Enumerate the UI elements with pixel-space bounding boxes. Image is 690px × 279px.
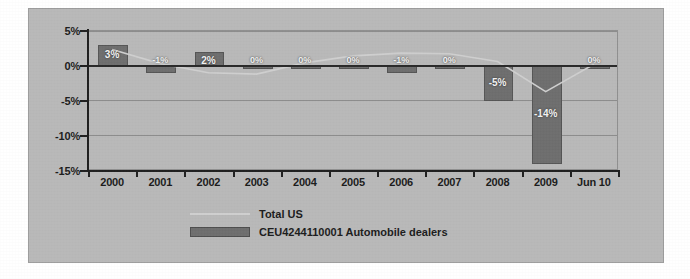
x-tick-label-2001: 2001 xyxy=(136,176,184,188)
x-tick-label-2004: 2004 xyxy=(281,176,329,188)
y-tick-label-1: 0% xyxy=(20,60,80,72)
x-axis-spine xyxy=(88,170,618,172)
legend-label-automobile-dealers: CEU4244110001 Automobile dealers xyxy=(259,226,448,238)
x-tick-label-2000: 2000 xyxy=(88,176,136,188)
legend: Total US CEU4244110001 Automobile dealer… xyxy=(190,207,448,243)
x-tick-label-2008: 2008 xyxy=(473,176,521,188)
bar-label-2001: -1% xyxy=(136,55,184,65)
x-tick-label-2002: 2002 xyxy=(184,176,232,188)
x-tick-mark-7 xyxy=(425,170,427,177)
legend-item-automobile-dealers: CEU4244110001 Automobile dealers xyxy=(190,225,448,238)
x-tick-mark-10 xyxy=(570,170,572,177)
bar-label-2004: 0% xyxy=(281,55,329,65)
zero-line xyxy=(89,65,617,67)
x-tick-mark-5 xyxy=(329,170,331,177)
legend-label-total-us: Total US xyxy=(259,208,303,220)
x-tick-mark-3 xyxy=(233,170,235,177)
bar-label-2008: -5% xyxy=(473,77,521,88)
legend-bar-swatch-icon xyxy=(190,227,250,237)
bar-label-2002: 2% xyxy=(184,55,232,66)
x-tick-label-2007: 2007 xyxy=(425,176,473,188)
bar-label-2000: 3% xyxy=(88,49,136,60)
chart-screenshot: 5% 0% -5% -10% -15% 3%-1%2%0%0%0%-1%0%-5… xyxy=(0,0,690,279)
x-tick-label-2003: 2003 xyxy=(233,176,281,188)
x-tick-label-2006: 2006 xyxy=(377,176,425,188)
x-tick-mark-4 xyxy=(281,170,283,177)
x-tick-mark-1 xyxy=(136,170,138,177)
legend-line-swatch-icon xyxy=(190,213,250,215)
x-tick-mark-6 xyxy=(377,170,379,177)
y-tick-label-3: -10% xyxy=(20,130,80,142)
bar-label-2005: 0% xyxy=(329,55,377,65)
x-tick-mark-9 xyxy=(522,170,524,177)
bar-label-2006: -1% xyxy=(377,55,425,65)
bar-label-2009: -14% xyxy=(522,108,570,119)
legend-item-total-us: Total US xyxy=(190,207,448,220)
x-tick-label-2005: 2005 xyxy=(329,176,377,188)
y-tick-label-2: -5% xyxy=(20,95,80,107)
line-series-total-us xyxy=(88,30,618,170)
y-axis-labels: 5% 0% -5% -10% -15% xyxy=(8,0,80,279)
bar-label-2003: 0% xyxy=(233,55,281,65)
x-tick-mark-0 xyxy=(88,170,90,177)
bar-label-jun-10: 0% xyxy=(570,55,618,65)
bar-label-2007: 0% xyxy=(425,55,473,65)
y-tick-label-0: 5% xyxy=(20,25,80,37)
x-tick-label-2009: 2009 xyxy=(522,176,570,188)
y-tick-label-4: -15% xyxy=(20,165,80,177)
x-tick-mark-2 xyxy=(184,170,186,177)
x-tick-mark-end xyxy=(618,170,620,177)
x-tick-mark-8 xyxy=(473,170,475,177)
x-tick-label-jun-10: Jun 10 xyxy=(570,176,618,188)
